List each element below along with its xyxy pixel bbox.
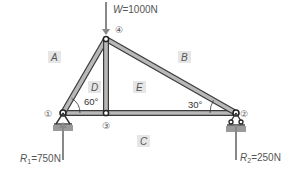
angle-label-30: 30° — [188, 99, 203, 110]
reaction-label-r2: R2=250N — [240, 152, 281, 164]
svg-text:A: A — [50, 52, 58, 63]
svg-text:C: C — [140, 136, 148, 147]
node-label-1: ① — [44, 109, 52, 119]
svg-text:B: B — [181, 52, 188, 63]
member-4-2 — [106, 39, 236, 113]
node-label-4: ④ — [115, 25, 123, 35]
load-label: W=1000N — [113, 4, 158, 15]
node-label-3: ③ — [102, 121, 110, 131]
svg-text:E: E — [136, 82, 143, 93]
region-label-d: D — [88, 81, 101, 93]
svg-text:D: D — [91, 82, 98, 93]
joint-4 — [103, 36, 108, 41]
region-label-b: B — [178, 51, 191, 63]
truss-diagram: W=1000N R1=750N R2=250N ① ② ③ ④ A B C D … — [0, 0, 291, 175]
joint-3 — [103, 110, 108, 115]
region-label-c: C — [137, 135, 150, 147]
region-label-e: E — [133, 81, 146, 93]
region-label-a: A — [48, 51, 61, 63]
reaction-label-r1: R1=750N — [20, 153, 61, 165]
node-label-2: ② — [240, 109, 248, 119]
angle-label-60: 60° — [84, 96, 99, 107]
